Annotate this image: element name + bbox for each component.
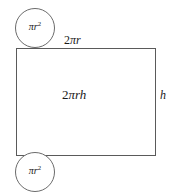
lateral-area-label: 2πrh [62,88,86,101]
radius-height-variables: rh [75,87,86,102]
lateral-surface-rectangle [16,48,156,156]
bottom-cap-circle: πr2 [15,152,55,192]
radius-variable: r [76,33,81,47]
top-cap-area-label: πr2 [29,22,41,32]
height-variable: h [160,88,166,102]
exponent-two: 2 [38,164,41,171]
cylinder-net-diagram: πr2 πr2 2πr 2πrh h [0,0,172,192]
right-edge-height-label: h [160,89,166,101]
top-edge-circumference-label: 2πr [64,34,81,46]
top-cap-circle: πr2 [15,8,55,48]
bottom-cap-area-label: πr2 [29,166,41,176]
exponent-two: 2 [38,20,41,27]
